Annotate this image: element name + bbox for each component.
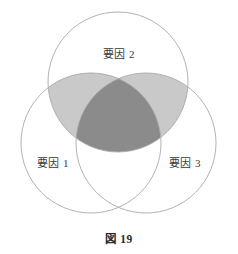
figure-caption: 図 19 (0, 230, 238, 246)
venn-figure: 要因 2 要因 1 要因 3 図 19 (0, 0, 238, 254)
circle-label-factor3: 要因 3 (169, 154, 201, 170)
circle-label-factor2: 要因 2 (103, 45, 135, 61)
circle-label-factor1: 要因 1 (37, 154, 69, 170)
venn-diagram-canvas (0, 0, 238, 254)
